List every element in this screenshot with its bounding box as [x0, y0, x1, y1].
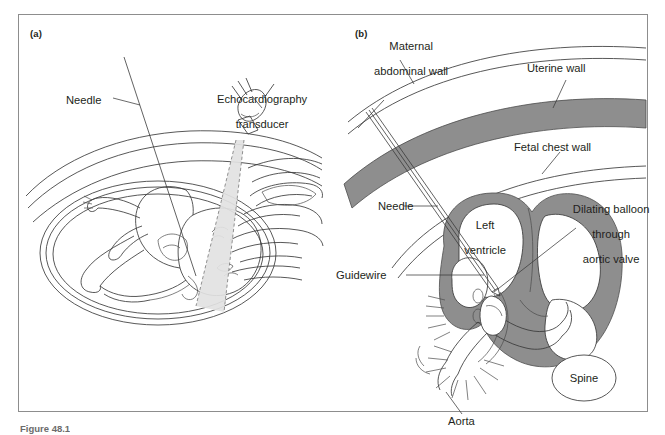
label-dilating-balloon-line2: through	[592, 228, 630, 240]
leader-needle-a	[113, 98, 140, 105]
ultrasound-beam	[196, 140, 244, 312]
label-dilating-balloon-line1: Dilating balloon	[573, 203, 650, 215]
label-guidewire: Guidewire	[336, 269, 386, 282]
label-uterine-wall: Uterine wall	[527, 62, 585, 75]
label-spine: Spine	[554, 372, 614, 385]
label-aorta: Aorta	[448, 415, 475, 428]
label-echocardiography-transducer-line2: transducer	[236, 118, 289, 130]
label-dilating-balloon: Dilating balloon through aortic valve	[560, 190, 656, 266]
label-echocardiography-transducer: Echocardiography transducer	[203, 80, 315, 130]
figure-caption: Figure 48.1	[20, 423, 70, 435]
needle-shaft-a	[124, 57, 196, 276]
label-left-ventricle: Left ventricle	[452, 206, 512, 256]
label-dilating-balloon-line3: aortic valve	[583, 253, 640, 265]
label-maternal-abdominal-wall-line1: Maternal	[389, 40, 433, 52]
uterus-outline	[40, 181, 276, 325]
label-fetal-chest-wall: Fetal chest wall	[514, 141, 591, 154]
leader-fetal-chest-wall	[542, 152, 560, 174]
panel-a-letter: (a)	[30, 28, 42, 39]
label-left-ventricle-line2: ventricle	[464, 244, 506, 256]
label-maternal-abdominal-wall-line2: abdominal wall	[374, 65, 448, 77]
label-echocardiography-transducer-line1: Echocardiography	[217, 93, 307, 105]
label-needle-b: Needle	[378, 200, 413, 213]
leader-aorta	[446, 392, 462, 414]
label-left-ventricle-line1: Left	[476, 219, 495, 231]
label-needle-a: Needle	[66, 94, 101, 107]
label-maternal-abdominal-wall: Maternal abdominal wall	[352, 27, 464, 77]
